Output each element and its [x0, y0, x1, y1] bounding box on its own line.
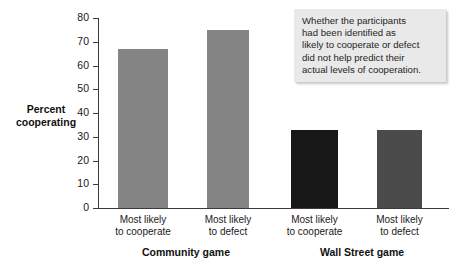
- y-tick-mark: [93, 42, 98, 43]
- y-tick-label: 20: [77, 154, 89, 167]
- y-axis-title-line1: Percent: [6, 103, 86, 116]
- category-label-3: Most likelyto defect: [356, 214, 444, 238]
- y-tick-label: 80: [77, 11, 89, 24]
- callout-line-5: actual levels of cooperation.: [302, 64, 439, 76]
- y-tick-label: 50: [77, 82, 89, 95]
- category-label-line2: to defect: [184, 226, 272, 238]
- y-tick-mark: [93, 184, 98, 185]
- y-tick-label: 0: [83, 201, 89, 214]
- y-tick-mark: [93, 113, 98, 114]
- y-tick-mark: [93, 161, 98, 162]
- y-axis-title-line2: cooperating: [6, 116, 86, 129]
- category-label-line2: to defect: [356, 226, 444, 238]
- bar-2: [291, 130, 338, 208]
- y-tick-mark: [93, 137, 98, 138]
- category-label-line1: Most likely: [99, 214, 187, 226]
- y-tick-label: 10: [77, 177, 89, 190]
- category-label-line2: to cooperate: [99, 226, 187, 238]
- y-axis-line: [98, 18, 99, 209]
- category-label-line1: Most likely: [271, 214, 359, 226]
- y-axis-title: Percent cooperating: [6, 103, 86, 128]
- category-label-line1: Most likely: [356, 214, 444, 226]
- callout-line-1: Whether the participants: [302, 15, 439, 27]
- y-tick-70: 70: [93, 42, 98, 43]
- y-tick-label: 30: [77, 130, 89, 143]
- callout-line-3: likely to cooperate or defect: [302, 39, 439, 51]
- x-axis-line: [98, 208, 449, 209]
- group-label-wall-street-game: Wall Street game: [274, 246, 450, 259]
- y-tick-mark: [93, 208, 98, 209]
- category-label-line2: to cooperate: [271, 226, 359, 238]
- y-tick-mark: [93, 66, 98, 67]
- y-tick-40: 40: [93, 113, 98, 114]
- group-label-community-game: Community game: [98, 246, 274, 259]
- callout-annotation: Whether the participants had been identi…: [294, 9, 446, 82]
- y-tick-20: 20: [93, 161, 98, 162]
- bar-1: [207, 30, 249, 208]
- y-tick-30: 30: [93, 137, 98, 138]
- category-label-2: Most likelyto cooperate: [271, 214, 359, 238]
- y-tick-60: 60: [93, 66, 98, 67]
- callout-line-4: did not help predict their: [302, 52, 439, 64]
- y-tick-mark: [93, 18, 98, 19]
- bar-3: [377, 130, 422, 208]
- y-tick-50: 50: [93, 89, 98, 90]
- y-tick-mark: [93, 89, 98, 90]
- category-label-1: Most likelyto defect: [184, 214, 272, 238]
- y-tick-0: 0: [93, 208, 98, 209]
- y-tick-80: 80: [93, 18, 98, 19]
- y-tick-label: 60: [77, 59, 89, 72]
- category-label-line1: Most likely: [184, 214, 272, 226]
- category-label-0: Most likelyto cooperate: [99, 214, 187, 238]
- callout-line-2: had been identified as: [302, 27, 439, 39]
- y-tick-label: 70: [77, 35, 89, 48]
- y-tick-label: 40: [77, 106, 89, 119]
- bar-0: [118, 49, 168, 208]
- bar-chart: Percent cooperating 80706050403020100 Mo…: [0, 0, 459, 274]
- y-tick-10: 10: [93, 184, 98, 185]
